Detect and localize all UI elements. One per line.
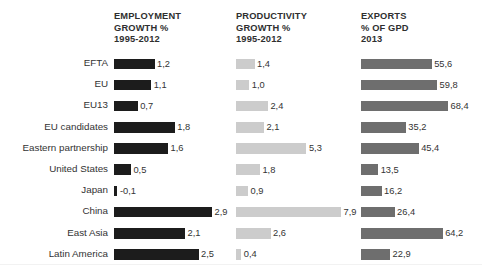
bar-value-exports-pct-gdp: 16,2 xyxy=(384,186,402,197)
bar-exports-pct-gdp xyxy=(361,228,443,239)
bar-value-productivity-growth: 2,4 xyxy=(270,101,283,112)
bar-productivity-growth xyxy=(236,101,268,112)
bar-employment-growth xyxy=(114,207,212,218)
measure-exports-pct-gdp: 26,4 xyxy=(361,203,479,224)
measure-exports-pct-gdp: 55,6 xyxy=(361,55,479,76)
measure-employment-growth: 1,8 xyxy=(114,119,232,140)
row-label-eu: EU xyxy=(94,78,108,90)
chart-row: EU candidates1,82,135,2 xyxy=(0,119,482,140)
bar-employment-growth xyxy=(114,101,138,112)
bar-value-productivity-growth: 2,6 xyxy=(273,228,286,239)
measure-productivity-growth: 1,0 xyxy=(236,76,358,97)
bar-productivity-growth xyxy=(236,228,271,239)
bar-productivity-growth xyxy=(236,143,306,154)
measure-employment-growth: 1,6 xyxy=(114,140,232,161)
bar-productivity-growth xyxy=(236,59,255,70)
measure-productivity-growth: 2,6 xyxy=(236,225,358,246)
bar-value-productivity-growth: 1,0 xyxy=(252,80,265,91)
bar-value-productivity-growth: 1,4 xyxy=(257,59,270,70)
bar-employment-growth xyxy=(114,249,199,260)
measure-employment-growth: 2,1 xyxy=(114,225,232,246)
column-header-employment-growth: EMPLOYMENT GROWTH % 1995-2012 xyxy=(114,11,232,46)
bar-value-employment-growth: 2,9 xyxy=(215,207,228,218)
bar-value-employment-growth: 1,8 xyxy=(177,122,190,133)
bar-value-exports-pct-gdp: 68,4 xyxy=(451,101,469,112)
chart-row: EFTA1,21,455,6 xyxy=(0,55,482,76)
bar-exports-pct-gdp xyxy=(361,164,378,175)
bar-value-employment-growth: 1,6 xyxy=(171,143,184,154)
bar-employment-growth xyxy=(114,59,155,70)
measure-exports-pct-gdp: 35,2 xyxy=(361,119,479,140)
bar-employment-growth xyxy=(114,164,131,175)
bar-value-exports-pct-gdp: 22,9 xyxy=(393,249,411,260)
bar-value-exports-pct-gdp: 64,2 xyxy=(445,228,463,239)
bar-value-employment-growth: 0,5 xyxy=(133,165,146,176)
bar-exports-pct-gdp xyxy=(361,101,448,112)
bar-value-employment-growth: -0,1 xyxy=(120,186,136,197)
bar-value-exports-pct-gdp: 45,4 xyxy=(421,143,439,154)
row-label-eu-candidates: EU candidates xyxy=(44,121,108,133)
bar-value-employment-growth: 2,1 xyxy=(188,228,201,239)
chart-row: EU130,72,468,4 xyxy=(0,97,482,118)
bar-value-productivity-growth: 1,8 xyxy=(262,165,275,176)
bar-value-employment-growth: 0,7 xyxy=(140,101,153,112)
row-label-united-states: United States xyxy=(49,163,108,175)
bar-productivity-growth xyxy=(236,80,249,91)
bar-value-productivity-growth: 0,9 xyxy=(251,186,264,197)
row-label-eastern-partnership: Eastern partnership xyxy=(23,142,109,154)
row-label-latin-america: Latin America xyxy=(49,248,108,260)
bar-value-exports-pct-gdp: 35,2 xyxy=(408,122,426,133)
bottom-divider xyxy=(0,264,482,265)
row-label-eu13: EU13 xyxy=(83,99,108,111)
bar-productivity-growth xyxy=(236,122,264,133)
chart-row: EU1,11,059,8 xyxy=(0,76,482,97)
bar-exports-pct-gdp xyxy=(361,80,437,91)
bar-value-exports-pct-gdp: 55,6 xyxy=(434,59,452,70)
row-label-east-asia: East Asia xyxy=(67,227,108,239)
measure-employment-growth: 0,7 xyxy=(114,97,232,118)
bar-value-productivity-growth: 2,1 xyxy=(266,122,279,133)
measure-employment-growth: 0,5 xyxy=(114,161,232,182)
bar-productivity-growth xyxy=(236,207,341,218)
row-label-japan: Japan xyxy=(81,184,108,196)
bar-value-exports-pct-gdp: 59,8 xyxy=(440,80,458,91)
measure-employment-growth: -0,1 xyxy=(114,182,232,203)
measure-productivity-growth: 7,9 xyxy=(236,203,358,224)
measure-employment-growth: 2,9 xyxy=(114,203,232,224)
chart-row: East Asia2,12,664,2 xyxy=(0,225,482,246)
column-header-exports-pct-gdp: EXPORTS % OF GPD 2013 xyxy=(361,11,471,46)
measure-employment-growth: 1,2 xyxy=(114,55,232,76)
bar-employment-growth xyxy=(114,186,117,197)
bar-exports-pct-gdp xyxy=(361,59,432,70)
bar-productivity-growth xyxy=(236,186,248,197)
measure-productivity-growth: 2,4 xyxy=(236,97,358,118)
bar-exports-pct-gdp xyxy=(361,207,395,218)
measure-exports-pct-gdp: 68,4 xyxy=(361,97,479,118)
bar-exports-pct-gdp xyxy=(361,186,382,197)
measure-productivity-growth: 1,4 xyxy=(236,55,358,76)
row-label-efta: EFTA xyxy=(84,57,108,69)
column-header-productivity-growth: PRODUCTIVITY GROWTH % 1995-2012 xyxy=(236,11,354,46)
bar-productivity-growth xyxy=(236,164,260,175)
bar-employment-growth xyxy=(114,122,175,133)
chart-rows: EFTA1,21,455,6EU1,11,059,8EU130,72,468,4… xyxy=(0,55,482,267)
chart-row: Eastern partnership1,65,345,4 xyxy=(0,140,482,161)
bar-value-employment-growth: 1,1 xyxy=(154,80,167,91)
bar-value-exports-pct-gdp: 13,5 xyxy=(381,165,399,176)
measure-productivity-growth: 0,9 xyxy=(236,182,358,203)
grouped-bar-chart: EMPLOYMENT GROWTH % 1995-2012 PRODUCTIVI… xyxy=(0,0,482,267)
chart-row: China2,97,926,4 xyxy=(0,203,482,224)
bar-employment-growth xyxy=(114,143,168,154)
bar-value-employment-growth: 1,2 xyxy=(157,59,170,70)
measure-exports-pct-gdp: 64,2 xyxy=(361,225,479,246)
bar-productivity-growth xyxy=(236,249,241,260)
chart-row: Japan-0,10,916,2 xyxy=(0,182,482,203)
bar-exports-pct-gdp xyxy=(361,122,406,133)
measure-exports-pct-gdp: 13,5 xyxy=(361,161,479,182)
measure-exports-pct-gdp: 59,8 xyxy=(361,76,479,97)
row-label-china: China xyxy=(82,205,108,217)
bar-employment-growth xyxy=(114,228,185,239)
chart-row: United States0,51,813,5 xyxy=(0,161,482,182)
bar-value-employment-growth: 2,5 xyxy=(201,249,214,260)
measure-productivity-growth: 1,8 xyxy=(236,161,358,182)
